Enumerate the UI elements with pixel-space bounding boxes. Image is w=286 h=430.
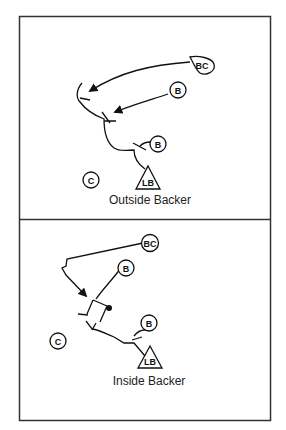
player-lb: LB [136, 166, 160, 189]
caption-inside-backer: Inside Backer [113, 374, 186, 388]
panel-outside-backer [77, 62, 190, 169]
block-point [106, 305, 112, 311]
player-b1: B [170, 82, 186, 98]
player-b1: B [118, 260, 134, 276]
svg-text:B: B [123, 264, 130, 274]
svg-text:B: B [175, 86, 182, 96]
player-c: C [83, 172, 99, 188]
svg-text:LB: LB [142, 178, 154, 188]
lb-path [77, 83, 145, 169]
b1-route-arrow [115, 94, 168, 112]
block-mark-2 [102, 112, 116, 123]
player-bc: BC [142, 235, 159, 252]
play-diagram: BC B B C LB Outside Backer BC B [0, 0, 286, 430]
svg-text:C: C [88, 176, 95, 186]
svg-text:BC: BC [196, 61, 209, 71]
b1-route [96, 268, 121, 299]
b2-block-mark [133, 142, 150, 150]
player-lb: LB [138, 346, 162, 368]
caption-outside-backer: Outside Backer [109, 193, 191, 207]
block-box [87, 300, 107, 322]
player-b2: B [150, 136, 166, 152]
svg-text:B: B [155, 140, 162, 150]
b2-block-mark [132, 330, 145, 340]
block-mark-1 [80, 98, 90, 100]
panel-inside-backer [62, 243, 145, 356]
player-b2: B [141, 315, 157, 331]
player-c: C [50, 333, 66, 349]
svg-text:LB: LB [144, 357, 156, 367]
svg-text:B: B [146, 319, 153, 329]
block-mark-1 [78, 314, 88, 315]
svg-text:BC: BC [144, 239, 157, 249]
player-bc: BC [190, 56, 214, 74]
svg-text:C: C [55, 337, 62, 347]
